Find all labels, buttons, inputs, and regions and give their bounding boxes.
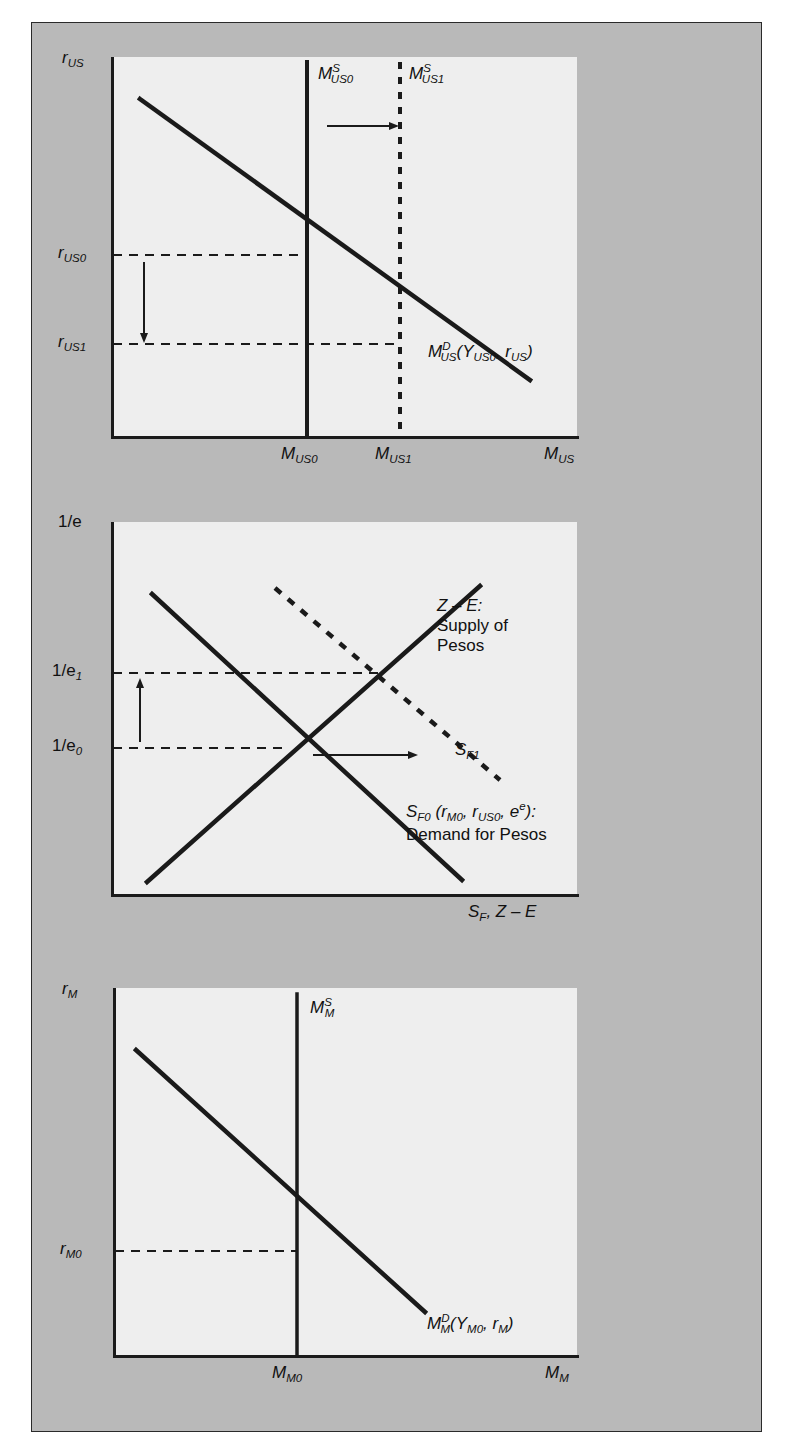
xtick-label-m-m0: MM0 <box>272 1363 302 1386</box>
panel-mexico-money-market: rM MSM MDM(YM0, rM) rM0 MM0 MM <box>0 0 791 1453</box>
curves-mx <box>0 0 791 1453</box>
curve-money-demand-mx <box>136 1050 425 1312</box>
x-axis-label-mx: MM <box>545 1363 569 1386</box>
ytick-label-r-m0: rM0 <box>60 1239 82 1262</box>
y-axis-label-mx: rM <box>62 979 77 1002</box>
figure-container: rUS MSUS0 MSUS1 MDUS(YUS0, rUS) rUS0 rUS… <box>0 0 791 1453</box>
label-money-demand-mx: MDM(YM0, rM) <box>427 1312 513 1337</box>
label-money-supply-mx: MSM <box>310 996 334 1021</box>
